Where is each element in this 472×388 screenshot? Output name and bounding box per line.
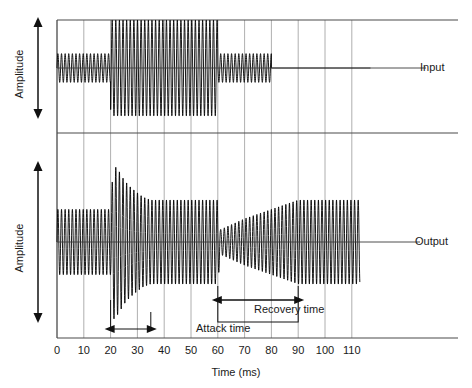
- x-tick-label: 110: [337, 344, 367, 356]
- x-tick-label: 0: [42, 344, 72, 356]
- series-label-input: Input: [420, 61, 444, 73]
- x-tick-label: 100: [310, 344, 340, 356]
- waveform-figure: Time (ms) Amplitude Amplitude Input Outp…: [0, 0, 472, 388]
- x-tick-label: 30: [122, 344, 152, 356]
- x-tick-label: 50: [176, 344, 206, 356]
- x-tick-label: 20: [96, 344, 126, 356]
- x-axis-label: Time (ms): [0, 366, 472, 378]
- x-tick-label: 40: [149, 344, 179, 356]
- x-tick-label: 70: [230, 344, 260, 356]
- series-label-output: Output: [415, 235, 448, 247]
- annotation-attack-time: Attack time: [196, 322, 250, 334]
- waveform-traces: [57, 20, 426, 319]
- y-axis-label-input: Amplitude: [13, 38, 25, 110]
- annotation-recovery-time: Recovery time: [254, 303, 324, 315]
- y-axis-label-output: Amplitude: [13, 212, 25, 284]
- x-tick-label: 90: [283, 344, 313, 356]
- x-tick-label: 80: [256, 344, 286, 356]
- x-tick-label: 60: [203, 344, 233, 356]
- x-tick-label: 10: [69, 344, 99, 356]
